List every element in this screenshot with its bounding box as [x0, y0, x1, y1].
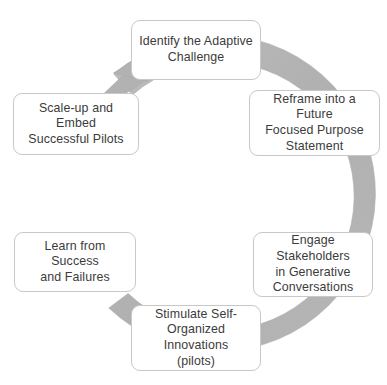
step-box-stimulate-self-organized-innovations[interactable]: Stimulate Self- Organized Innovations (p… — [131, 305, 261, 371]
step-label: Stimulate Self- Organized Innovations (p… — [138, 307, 254, 370]
diagram-canvas: Identify the Adaptive Challenge Reframe … — [0, 0, 387, 385]
step-box-learn-from-success-and-failures[interactable]: Learn from Success and Failures — [14, 232, 136, 292]
step-box-scale-up-and-embed[interactable]: Scale-up and Embed Successful Pilots — [13, 93, 139, 155]
step-label: Scale-up and Embed Successful Pilots — [20, 101, 132, 148]
ring-band — [109, 35, 376, 351]
step-box-identify-adaptive-challenge[interactable]: Identify the Adaptive Challenge — [131, 20, 261, 80]
step-label: Reframe into a Future Focused Purpose St… — [256, 92, 373, 155]
step-label: Learn from Success and Failures — [21, 239, 129, 286]
step-label: Identify the Adaptive Challenge — [138, 34, 254, 65]
step-box-engage-stakeholders[interactable]: Engage Stakeholders in Generative Conver… — [253, 232, 373, 297]
step-label: Engage Stakeholders in Generative Conver… — [260, 233, 366, 296]
step-box-reframe-future-focused-purpose[interactable]: Reframe into a Future Focused Purpose St… — [249, 90, 380, 156]
